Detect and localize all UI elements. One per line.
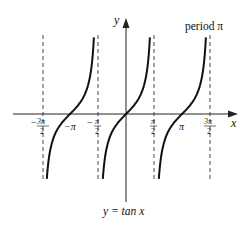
y-axis-arrow-icon [123,18,130,28]
tick-neg-3pi-2-den: 2 [40,127,44,136]
tan-branch-left [47,37,94,178]
x-axis-label: x [230,116,237,130]
tick-3pi-2-den: 2 [207,127,211,136]
chart-caption: y = tan x [102,205,145,218]
tick-neg-pi-2-num: π [95,117,100,126]
tick-neg-pi-2-sign: − [87,117,93,128]
tan-chart: y x period π − 3π 2 −π − π 2 π 2 π 3π 2 … [0,0,249,229]
y-axis-label: y [113,13,120,27]
tan-branch-right [159,37,206,178]
tick-neg-pi: −π [64,121,77,132]
tick-pi-2-num: π [151,117,156,126]
tick-pi-2-den: 2 [151,127,155,136]
period-annotation: period π [185,20,223,33]
tick-3pi-2-num: 3π [203,117,213,126]
tick-neg-3pi-2-num: 3π [36,117,46,126]
tick-pi: π [179,121,185,132]
tick-neg-pi-2-den: 2 [95,127,99,136]
